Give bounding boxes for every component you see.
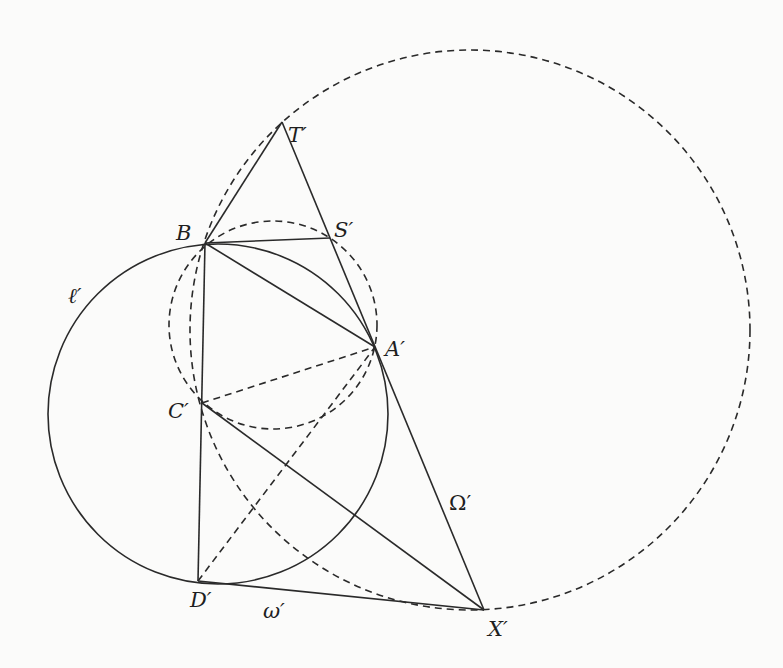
label-X: X′ [486,617,508,641]
label-S: S′ [334,218,353,242]
label-omega-small: ω′ [263,599,285,623]
label-A: A′ [383,337,405,361]
segment-B-S [205,238,330,243]
label-D: D′ [189,588,212,612]
segment-C-A-dashed [202,347,375,403]
label-C: C′ [168,399,189,423]
segment-D-X [198,581,484,610]
segment-D-A-dashed [198,347,375,581]
label-B: B [175,221,191,245]
label-T: T′ [288,123,307,147]
geometry-diagram: T′ B S′ A′ C′ D′ X′ ℓ′ Ω′ ω′ [0,0,783,668]
label-ell-prime: ℓ′ [68,284,82,308]
segment-B-A [205,243,375,347]
label-omega-big: Ω′ [449,491,471,515]
segment-B-D [198,243,205,581]
circle-aux-dashed [169,221,377,429]
